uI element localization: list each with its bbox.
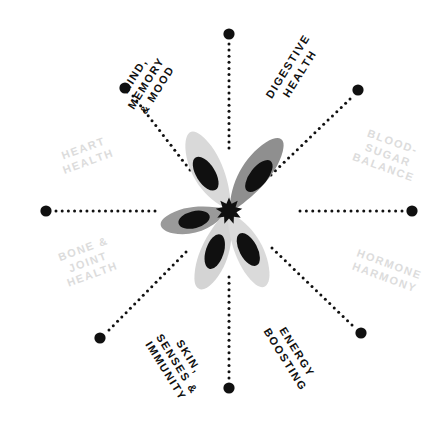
center-flower-graphic (0, 0, 444, 421)
radial-benefits-wheel: MIND, MEMORY & MOODDIGESTIVE HEALTHBLOOD… (0, 0, 444, 421)
